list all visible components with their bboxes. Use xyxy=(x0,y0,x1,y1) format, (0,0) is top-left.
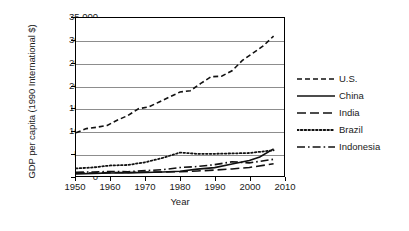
legend-swatch-icon xyxy=(297,108,335,118)
x-tick-mark xyxy=(145,177,146,181)
legend-item-india[interactable]: India xyxy=(297,104,407,121)
x-tick-label: 1950 xyxy=(55,181,95,192)
x-tick-mark xyxy=(180,177,181,181)
plot-area xyxy=(75,17,285,177)
legend-swatch-icon xyxy=(297,74,335,84)
x-tick-mark xyxy=(215,177,216,181)
x-tick-label: 2000 xyxy=(230,181,270,192)
legend-label: China xyxy=(339,90,364,101)
chart-legend: U.S.ChinaIndiaBrazilIndonesia xyxy=(297,70,407,155)
x-tick-label: 1980 xyxy=(160,181,200,192)
x-tick-label: 2010 xyxy=(265,181,305,192)
data-series-lines xyxy=(76,18,284,176)
x-tick-label: 1990 xyxy=(195,181,235,192)
legend-item-china[interactable]: China xyxy=(297,87,407,104)
y-axis-title: GDP per capita (1990 International $) xyxy=(26,17,37,187)
chart-figure: GDP per capita (1990 International $) 05… xyxy=(0,0,409,231)
series-line-us xyxy=(76,36,274,133)
legend-item-us[interactable]: U.S. xyxy=(297,70,407,87)
legend-item-brazil[interactable]: Brazil xyxy=(297,121,407,138)
series-line-brazil xyxy=(76,150,274,168)
x-tick-mark xyxy=(285,177,286,181)
x-tick-label: 1960 xyxy=(90,181,130,192)
legend-label: India xyxy=(339,107,360,118)
legend-swatch-icon xyxy=(297,142,335,152)
x-tick-mark xyxy=(75,177,76,181)
legend-swatch-icon xyxy=(297,125,335,135)
legend-item-indonesia[interactable]: Indonesia xyxy=(297,138,407,155)
legend-label: Brazil xyxy=(339,124,363,135)
legend-label: Indonesia xyxy=(339,141,380,152)
x-axis-title: Year xyxy=(75,196,285,207)
x-tick-label: 1970 xyxy=(125,181,165,192)
legend-label: U.S. xyxy=(339,73,357,84)
x-tick-mark xyxy=(250,177,251,181)
x-tick-mark xyxy=(110,177,111,181)
legend-swatch-icon xyxy=(297,91,335,101)
